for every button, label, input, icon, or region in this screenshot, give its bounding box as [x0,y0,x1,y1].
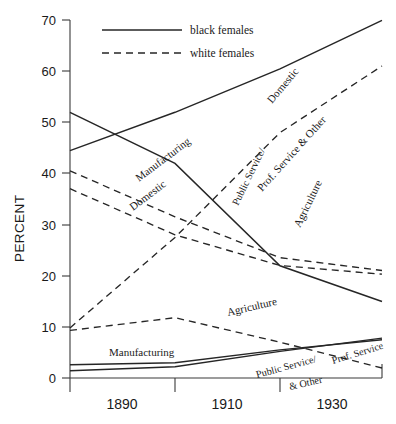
legend-label-white-females: white females [190,47,255,59]
series-group-white-females [70,66,382,368]
curve-label-black-public-service-other: & Other [288,374,324,392]
y-tick-label-20: 20 [42,269,56,284]
y-axis-ticks: 70 60 50 40 30 20 10 0 [42,13,70,386]
curve-label-black-manufacturing: Manufacturing [109,346,175,358]
series-line-black-agriculture [70,20,382,150]
y-tick-label-30: 30 [42,218,56,233]
axes [70,20,382,378]
y-tick-label-70: 70 [42,13,56,28]
y-tick-label-50: 50 [42,115,56,130]
series-line-white-prof-service-other [70,66,382,328]
line-chart: 70 60 50 40 30 20 10 0 PERCENT 1890 1910… [0,0,396,424]
x-tick-label-1910: 1910 [211,396,242,412]
series-line-white-domestic [70,189,382,275]
x-tick-label-1930: 1930 [316,396,347,412]
x-tick-label-1890: 1890 [106,396,137,412]
curve-label-white-domestic: Domestic [127,178,168,213]
curve-label-white-agriculture: Agriculture [226,295,278,318]
series-line-black-domestic [70,112,382,301]
series-line-white-manufacturing [70,171,382,271]
y-axis-title: PERCENT [12,195,27,262]
chart-container: 70 60 50 40 30 20 10 0 PERCENT 1890 1910… [0,0,396,424]
curve-label-black-agriculture: Agriculture [291,178,324,229]
legend-label-black-females: black females [190,24,254,36]
y-tick-label-60: 60 [42,64,56,79]
curve-label-white-manufacturing: Manufacturing [133,134,193,183]
curve-label-black-domestic: Domestic [264,65,300,105]
y-tick-label-0: 0 [49,371,56,386]
y-tick-label-10: 10 [42,320,56,335]
y-tick-label-40: 40 [42,166,56,181]
series-group-black-females [70,20,382,371]
legend: black females white females [102,24,255,59]
